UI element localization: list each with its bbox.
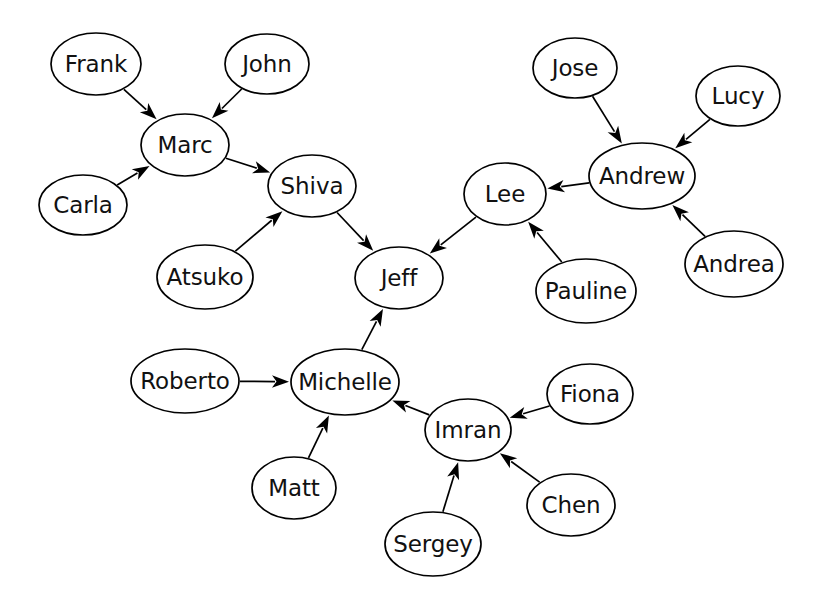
node-label-atsuko: Atsuko — [167, 264, 244, 290]
node-label-matt: Matt — [268, 475, 320, 501]
node-label-imran: Imran — [435, 417, 502, 443]
graph-node-matt[interactable]: Matt — [252, 457, 336, 519]
graph-node-carla[interactable]: Carla — [39, 175, 127, 235]
graph-node-michelle[interactable]: Michelle — [291, 349, 399, 415]
node-label-chen: Chen — [542, 492, 601, 518]
graph-node-shiva[interactable]: Shiva — [268, 155, 356, 217]
graph-node-sergey[interactable]: Sergey — [385, 512, 481, 576]
node-label-jeff: Jeff — [379, 265, 419, 291]
node-label-jose: Jose — [550, 55, 599, 81]
graph-node-chen[interactable]: Chen — [527, 474, 615, 536]
graph-node-andrea[interactable]: Andrea — [685, 231, 783, 297]
node-label-frank: Frank — [65, 51, 128, 77]
node-label-pauline: Pauline — [545, 278, 627, 304]
node-label-john: John — [240, 51, 292, 77]
graph-node-jose[interactable]: Jose — [533, 38, 617, 98]
node-label-michelle: Michelle — [298, 369, 392, 395]
graph-node-roberto[interactable]: Roberto — [131, 349, 239, 413]
graph-node-atsuko[interactable]: Atsuko — [157, 245, 253, 309]
node-label-sergey: Sergey — [393, 531, 473, 557]
graph-node-jeff[interactable]: Jeff — [355, 247, 443, 309]
node-label-roberto: Roberto — [140, 368, 230, 394]
node-label-andrea: Andrea — [693, 251, 775, 277]
node-label-fiona: Fiona — [560, 381, 620, 407]
node-label-carla: Carla — [53, 192, 113, 218]
node-label-marc: Marc — [157, 132, 212, 158]
graph-node-marc[interactable]: Marc — [141, 114, 229, 176]
graph-node-andrew[interactable]: Andrew — [589, 143, 695, 209]
graph-node-lucy[interactable]: Lucy — [696, 66, 780, 126]
graph-node-lee[interactable]: Lee — [464, 163, 546, 225]
node-label-lee: Lee — [485, 181, 525, 207]
graph-node-imran[interactable]: Imran — [425, 399, 511, 461]
node-label-lucy: Lucy — [712, 83, 765, 109]
node-label-shiva: Shiva — [281, 173, 344, 199]
node-label-andrew: Andrew — [599, 163, 685, 189]
graph-node-frank[interactable]: Frank — [51, 33, 141, 95]
graph-node-john[interactable]: John — [225, 34, 309, 94]
graph-node-fiona[interactable]: Fiona — [547, 364, 633, 424]
network-graph-canvas: FrankJohnMarcCarlaShivaAtsukoJeffJoseLuc… — [0, 0, 818, 605]
graph-node-pauline[interactable]: Pauline — [536, 259, 636, 323]
